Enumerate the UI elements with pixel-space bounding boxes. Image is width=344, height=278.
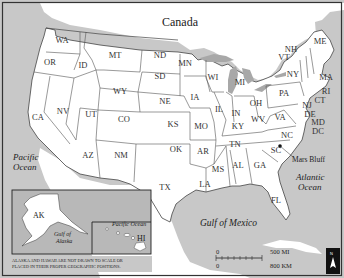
state-label-mn: MN (178, 58, 192, 68)
atlantic-ocean-label-1: Atlantic (295, 172, 325, 182)
state-label-mo: MO (194, 121, 208, 131)
inset-note-line-2: PLACED IN THEIR PROPER GEOGRAPHIC POSITI… (12, 264, 120, 269)
state-label-il: IL (215, 104, 223, 114)
state-label-la: LA (199, 179, 211, 189)
state-label-wv: WV (251, 114, 266, 124)
us-map-frame: WAORIDMTNDSDWYNEMNWIMIIAILINOHPANYCANVUT… (0, 0, 344, 278)
gulf-of-alaska-label-2: Alaska (55, 238, 72, 244)
state-label-mt: MT (109, 50, 123, 60)
state-label-in: IN (232, 108, 241, 118)
us-map-svg: WAORIDMTNDSDWYNEMNWIMIIAILINOHPANYCANVUT… (0, 0, 344, 278)
state-label-ia: IA (191, 92, 201, 102)
state-label-wa: WA (55, 35, 69, 45)
alaska-label: AK (33, 211, 45, 220)
state-label-nv: NV (57, 106, 70, 116)
state-label-ne: NE (159, 96, 170, 106)
state-label-wi: WI (208, 72, 219, 82)
state-label-al: AL (232, 160, 243, 170)
state-label-ks: KS (168, 119, 179, 129)
inset-box: AK Gulf of Alaska Pacific Ocean HI (12, 190, 151, 254)
state-label-oh: OH (250, 98, 262, 108)
mars-bluff-label: Mars Bluff (292, 155, 325, 164)
state-label-mi: MI (235, 77, 246, 87)
pacific-ocean-inset-label: Pacific Ocean (111, 221, 146, 227)
state-label-tn: TN (229, 139, 240, 149)
state-label-tx: TX (159, 182, 170, 192)
state-label-ga: GA (254, 160, 267, 170)
state-label-fl: FL (271, 195, 281, 205)
state-label-co: CO (118, 114, 130, 124)
state-label-va: VA (274, 112, 286, 122)
pacific-ocean-label-1: Pacific (12, 152, 39, 162)
state-label-ky: KY (232, 121, 244, 131)
scale-top-zero: 0 (216, 248, 219, 255)
scale-top-label: 500 MI (270, 248, 289, 255)
inset-note-line-1: ALASKA AND HAWAII ARE NOT DRAWN TO SCALE… (12, 258, 123, 263)
canada-label: Canada (162, 15, 199, 29)
state-label-ct: CT (315, 95, 327, 105)
gulf-of-mexico-label: Gulf of Mexico (200, 218, 257, 228)
state-label-me: ME (314, 36, 327, 46)
state-label-pa: PA (279, 88, 290, 98)
state-label-nc: NC (281, 130, 293, 140)
state-label-ok: OK (170, 144, 183, 154)
state-label-az: AZ (82, 150, 93, 160)
state-label-ca: CA (32, 112, 45, 122)
atlantic-ocean-label-2: Ocean (298, 182, 322, 192)
state-label-nm: NM (114, 150, 128, 160)
state-label-nd: ND (154, 50, 166, 60)
state-label-vt: VT (278, 52, 290, 62)
state-label-ut: UT (85, 109, 97, 119)
state-label-id: ID (79, 60, 88, 70)
state-label-ma: MA (319, 72, 334, 82)
state-label-or: OR (44, 57, 56, 67)
state-label-dc: DC (312, 126, 324, 136)
north-label: N (330, 251, 333, 256)
gulf-of-alaska-label-1: Gulf of (54, 231, 72, 237)
state-label-sd: SD (155, 71, 166, 81)
pacific-ocean-label-2: Ocean (13, 162, 37, 172)
scale-bottom-label: 800 KM (270, 262, 292, 269)
hawaii-label: HI (137, 234, 146, 243)
state-label-ms: MS (212, 164, 225, 174)
scale-bottom-zero: 0 (216, 262, 219, 269)
state-label-ny: NY (287, 69, 299, 79)
state-label-wy: WY (113, 86, 127, 96)
state-label-ar: AR (197, 146, 209, 156)
north-arrow-icon: N (326, 248, 340, 274)
